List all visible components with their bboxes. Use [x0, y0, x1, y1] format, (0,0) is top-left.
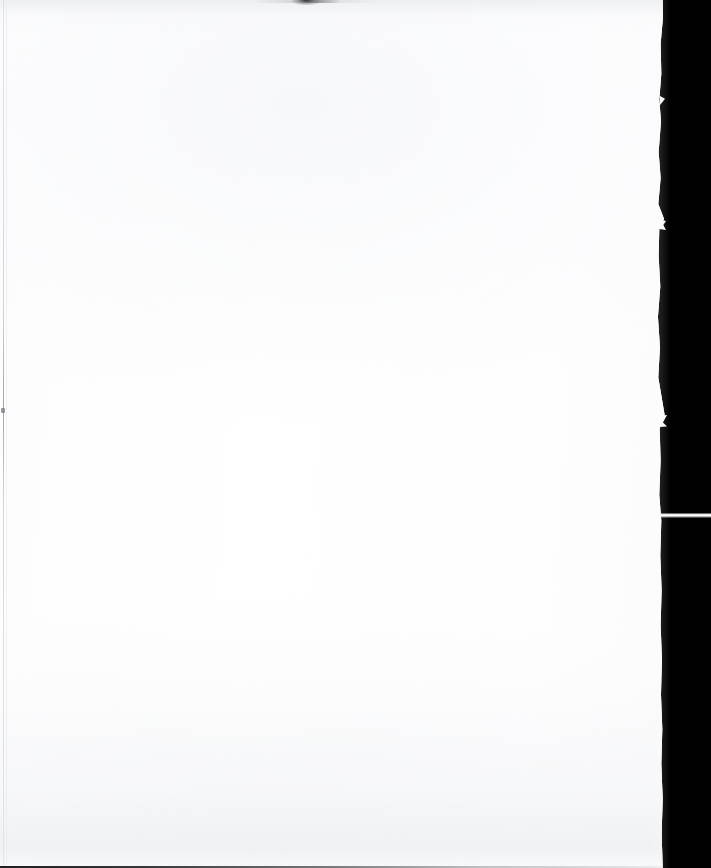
scanned-page-root [0, 0, 711, 868]
top-edge-dark-smudge [292, 0, 318, 5]
void-light-streak-artifact [655, 513, 711, 518]
top-scan-noise-band [0, 0, 668, 34]
page-body-text [60, 70, 608, 798]
left-edge-dark-speck [1, 408, 5, 413]
left-edge-scan-line-secondary [6, 0, 7, 868]
left-edge-scan-line [3, 0, 4, 868]
paper-sheet [0, 0, 668, 868]
